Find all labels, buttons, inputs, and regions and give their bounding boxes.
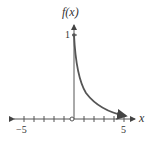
closed-point [72, 33, 76, 37]
function-curve [74, 35, 126, 116]
open-point [70, 117, 74, 121]
x-axis-label: x [138, 111, 145, 125]
function-graph: f(x) x −5 5 1 [0, 0, 153, 147]
y-axis-label: f(x) [62, 5, 79, 19]
tick-label-1: 1 [65, 29, 70, 40]
tick-label-neg5: −5 [16, 124, 27, 135]
tick-label-5: 5 [121, 124, 126, 135]
